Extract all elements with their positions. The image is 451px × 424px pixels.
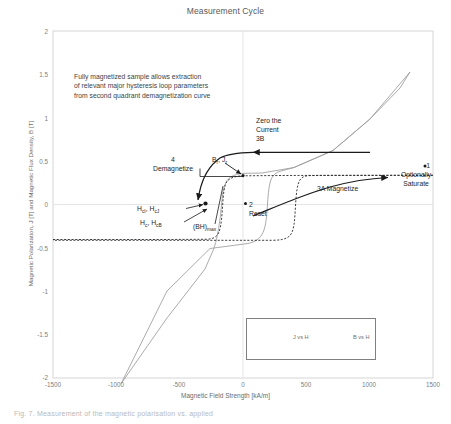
y-tick-label: -1.5 <box>20 331 48 338</box>
legend-label-j-vs-h: J vs H <box>293 334 309 340</box>
note-line-2: of relevant major hysteresis loop parame… <box>74 81 284 90</box>
br-symbol: B <box>212 156 217 163</box>
y-tick-label: 1.5 <box>20 71 48 78</box>
demagnetize-step-number: 4 <box>140 155 206 164</box>
y-tick-label: 1 <box>20 115 48 122</box>
reset-label: Reset <box>249 209 267 218</box>
legend-label-b-vs-h: B vs H <box>353 334 369 340</box>
annotation-zero-current: Zero the Current 3B <box>256 116 281 144</box>
y-tick-label: -1 <box>20 288 48 295</box>
y-axis-label: Magnetic Polarization, J [T] and Magneti… <box>27 24 34 384</box>
x-tick-label: 0 <box>223 381 263 388</box>
x-tick-label: -500 <box>159 381 199 388</box>
y-tick-label: 0.5 <box>20 158 48 165</box>
annotation-bh-max: (BH)max <box>193 222 216 232</box>
note-line-3: from second quadrant demagnetization cur… <box>74 91 284 100</box>
x-tick-label: 500 <box>286 381 326 388</box>
annotation-demagnetize: 4 Demagnetize <box>140 155 206 173</box>
reset-step-number: 2 <box>249 200 267 209</box>
hysteresis-plot <box>0 0 451 424</box>
x-axis-label: Magnetic Field Strength [kA/m] <box>0 392 451 399</box>
annotation-hci-hcj: HcI, HcJ <box>137 204 159 214</box>
x-tick-label: -1500 <box>33 381 73 388</box>
note-line-1: Fully magnetized sample allows extractio… <box>74 72 284 81</box>
bh-max-subscript: max <box>207 227 216 232</box>
hcj-subscript: cJ <box>154 209 159 214</box>
x-tick-label: 1000 <box>349 381 389 388</box>
br-subscript: r <box>217 160 219 165</box>
zero-current-line-3: 3B <box>256 134 281 143</box>
y-tick-label: 2 <box>20 28 48 35</box>
saturate-line-2: Saturate <box>388 179 444 188</box>
marker-br-jr <box>241 174 244 177</box>
hcb-subscript: cB <box>156 223 162 228</box>
zero-current-line-2: Current <box>256 125 281 134</box>
marker-hc-hci <box>203 201 207 205</box>
demagnetize-label: Demagnetize <box>140 164 206 173</box>
x-tick-label: -1000 <box>96 381 136 388</box>
marker-reset <box>244 202 247 205</box>
annotation-magnetize: 3A Magnetize <box>317 184 358 193</box>
bh-symbol: (BH) <box>193 223 207 230</box>
annotation-remanence: Br, Jr <box>212 155 227 165</box>
figure-caption: Fig. 7. Measurement of the magnetic pola… <box>14 410 434 417</box>
explanatory-note: Fully magnetized sample allows extractio… <box>74 72 284 100</box>
annotation-hc-hcb: Hc, HcB <box>140 218 162 228</box>
saturate-line-1: Optionally <box>388 170 444 179</box>
hci-subscript: cI <box>142 209 146 214</box>
saturate-step-number: 1 <box>388 161 444 170</box>
jr-subscript: r <box>225 160 227 165</box>
zero-current-line-1: Zero the <box>256 116 281 125</box>
y-tick-label: -2 <box>20 374 48 381</box>
y-tick-label: -0.5 <box>20 245 48 252</box>
annotation-saturate: 1 Optionally Saturate <box>388 161 444 189</box>
annotation-reset: 2 Reset <box>249 200 267 218</box>
hcb-symbol: , H <box>147 219 156 226</box>
x-tick-label: 1500 <box>413 381 451 388</box>
y-tick-label: 0 <box>20 201 48 208</box>
magnetize-label: 3A Magnetize <box>317 185 358 192</box>
